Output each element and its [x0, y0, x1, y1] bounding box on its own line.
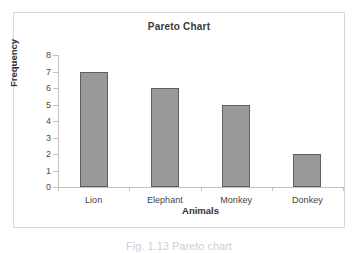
y-axis-title: Frequency — [8, 39, 19, 87]
figure-caption: Fig. 1.13 Pareto chart — [0, 240, 358, 253]
x-axis-tick — [129, 187, 130, 191]
y-axis-tick — [53, 154, 58, 155]
y-axis-tick-label: 5 — [46, 100, 51, 109]
bar-elephant — [151, 88, 179, 187]
y-axis-tick — [53, 55, 58, 56]
y-axis-tick-label: 1 — [46, 166, 51, 175]
bar-lion — [80, 72, 108, 188]
bar-donkey — [293, 154, 321, 187]
y-axis-tick-label: 2 — [46, 150, 51, 159]
bar-monkey — [222, 105, 250, 188]
x-axis-tick — [201, 187, 202, 191]
y-axis-tick — [53, 88, 58, 89]
y-axis-tick — [53, 105, 58, 106]
x-axis-tick-label: Lion — [85, 195, 102, 205]
x-axis-title: Animals — [58, 205, 343, 216]
y-axis-tick-label: 4 — [46, 117, 51, 126]
y-axis-tick-label: 7 — [46, 67, 51, 76]
plot-area: 012345678 LionElephantMonkeyDonkey — [58, 55, 343, 187]
y-axis-tick — [53, 171, 58, 172]
y-axis-line — [58, 55, 59, 187]
x-axis-tick — [272, 187, 273, 191]
y-axis-tick — [53, 121, 58, 122]
x-axis-tick-label: Donkey — [292, 195, 323, 205]
y-axis-tick — [53, 138, 58, 139]
y-axis-tick-label: 6 — [46, 84, 51, 93]
x-axis-tick — [58, 187, 59, 191]
y-axis-tick-label: 8 — [46, 51, 51, 60]
x-axis-tick-label: Monkey — [220, 195, 252, 205]
chart-frame: Pareto Chart 012345678 LionElephantMonke… — [13, 12, 345, 228]
x-axis-tick — [343, 187, 344, 191]
x-axis-tick-label: Elephant — [147, 195, 183, 205]
y-axis-tick — [53, 72, 58, 73]
chart-title: Pareto Chart — [14, 21, 344, 32]
y-axis-tick-label: 0 — [46, 183, 51, 192]
y-axis-tick-label: 3 — [46, 133, 51, 142]
